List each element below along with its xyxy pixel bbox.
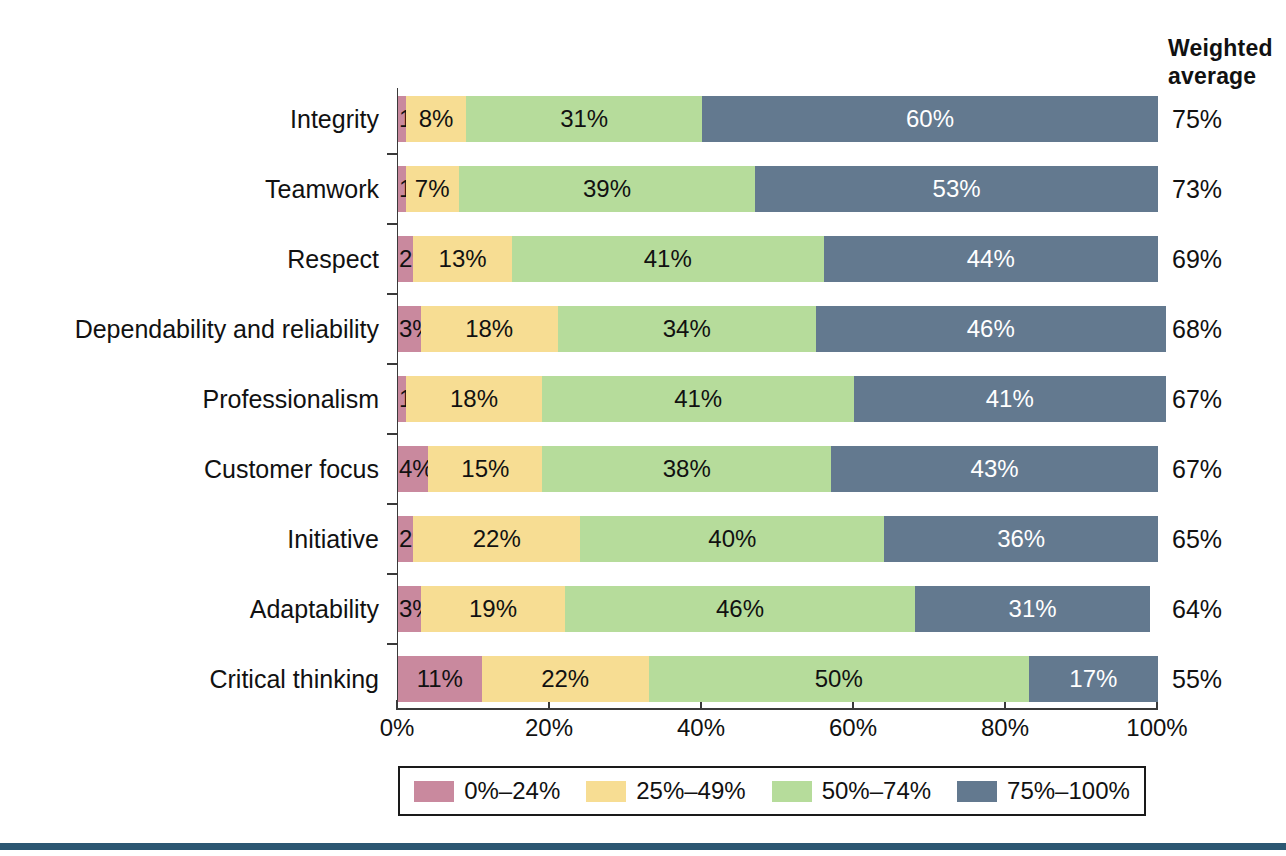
bar-segment-label: 11% bbox=[398, 656, 482, 702]
bar-segment-label: 46% bbox=[816, 306, 1166, 352]
category-label: Respect bbox=[0, 236, 379, 282]
bar-segment[interactable]: 11% bbox=[398, 656, 482, 702]
y-tick bbox=[387, 573, 398, 575]
bar-segment[interactable]: 38% bbox=[542, 446, 831, 492]
category-label: Integrity bbox=[0, 96, 379, 142]
legend-swatch bbox=[957, 781, 997, 802]
stacked-bar[interactable]: 11%22%50%17% bbox=[398, 656, 1158, 702]
legend-label: 0%–24% bbox=[464, 777, 560, 805]
stacked-bar[interactable]: 1%18%41%41% bbox=[398, 376, 1158, 422]
legend-item[interactable]: 75%–100% bbox=[957, 777, 1130, 805]
bar-segment-label: 31% bbox=[915, 586, 1151, 632]
legend-item[interactable]: 25%–49% bbox=[586, 777, 745, 805]
bar-segment[interactable]: 1% bbox=[398, 376, 406, 422]
bar-segment[interactable]: 22% bbox=[482, 656, 649, 702]
bar-segment[interactable]: 4% bbox=[398, 446, 428, 492]
bar-segment-label: 13% bbox=[413, 236, 512, 282]
bar-segment[interactable]: 18% bbox=[421, 306, 558, 352]
bar-segment[interactable]: 15% bbox=[428, 446, 542, 492]
bar-segment[interactable]: 31% bbox=[915, 586, 1151, 632]
bar-segment[interactable]: 41% bbox=[542, 376, 854, 422]
bar-segment[interactable]: 1% bbox=[398, 166, 406, 212]
stacked-bar[interactable]: 3%19%46%31% bbox=[398, 586, 1158, 632]
bar-segment-label: 60% bbox=[702, 96, 1158, 142]
bar-segment[interactable]: 1% bbox=[398, 96, 406, 142]
bar-segment[interactable]: 18% bbox=[406, 376, 543, 422]
bar-segment[interactable]: 50% bbox=[649, 656, 1029, 702]
stacked-bar[interactable]: 2%22%40%36% bbox=[398, 516, 1158, 562]
bar-segment[interactable]: 60% bbox=[702, 96, 1158, 142]
chart-page: Weighted average IntegrityTeamworkRespec… bbox=[0, 0, 1286, 856]
bar-segment[interactable]: 41% bbox=[512, 236, 824, 282]
bar-segment[interactable]: 53% bbox=[755, 166, 1158, 212]
stacked-bar[interactable]: 4%15%38%43% bbox=[398, 446, 1158, 492]
x-tick-label: 20% bbox=[525, 714, 573, 742]
bar-segment[interactable]: 22% bbox=[413, 516, 580, 562]
x-tick-label: 100% bbox=[1126, 714, 1187, 742]
stacked-bar[interactable]: 3%18%34%46% bbox=[398, 306, 1158, 352]
category-label: Teamwork bbox=[0, 166, 379, 212]
weighted-average-value: 67% bbox=[1172, 446, 1222, 492]
bar-segment[interactable]: 3% bbox=[398, 306, 421, 352]
weighted-average-header-line1: Weighted bbox=[1168, 34, 1286, 62]
bar-segment[interactable]: 7% bbox=[406, 166, 459, 212]
bar-segment-label: 53% bbox=[755, 166, 1158, 212]
bar-segment[interactable]: 36% bbox=[884, 516, 1158, 562]
category-label: Critical thinking bbox=[0, 656, 379, 702]
bar-segment-label: 8% bbox=[406, 96, 467, 142]
weighted-average-value: 68% bbox=[1172, 306, 1222, 352]
plot-area: 0%20%40%60%80%100% 1%8%31%60%75%1%7%39%5… bbox=[397, 88, 1157, 708]
x-tick-label: 40% bbox=[677, 714, 725, 742]
bar-segment[interactable]: 39% bbox=[459, 166, 755, 212]
legend-swatch bbox=[772, 781, 812, 802]
bar-segment[interactable]: 19% bbox=[421, 586, 565, 632]
legend-item[interactable]: 0%–24% bbox=[414, 777, 560, 805]
bar-segment[interactable]: 46% bbox=[565, 586, 915, 632]
bar-segment[interactable]: 40% bbox=[580, 516, 884, 562]
y-tick bbox=[387, 363, 398, 365]
bar-segment[interactable]: 31% bbox=[466, 96, 702, 142]
bar-segment[interactable]: 3% bbox=[398, 586, 421, 632]
bar-segment[interactable]: 43% bbox=[831, 446, 1158, 492]
bar-segment-label: 19% bbox=[421, 586, 565, 632]
bar-segment-label: 50% bbox=[649, 656, 1029, 702]
bar-segment[interactable]: 41% bbox=[854, 376, 1166, 422]
bar-segment-label: 31% bbox=[466, 96, 702, 142]
stacked-bar[interactable]: 1%7%39%53% bbox=[398, 166, 1158, 212]
bar-segment-label: 18% bbox=[406, 376, 543, 422]
bar-segment-label: 15% bbox=[428, 446, 542, 492]
bar-segment[interactable]: 2% bbox=[398, 236, 413, 282]
bar-segment[interactable]: 2% bbox=[398, 516, 413, 562]
stacked-bar[interactable]: 1%8%31%60% bbox=[398, 96, 1158, 142]
category-label: Professionalism bbox=[0, 376, 379, 422]
bar-segment-label: 41% bbox=[854, 376, 1166, 422]
bar-segment-label: 39% bbox=[459, 166, 755, 212]
bottom-rule bbox=[0, 843, 1286, 850]
y-tick bbox=[387, 153, 398, 155]
category-label: Adaptability bbox=[0, 586, 379, 632]
bar-segment[interactable]: 13% bbox=[413, 236, 512, 282]
legend: 0%–24%25%–49%50%–74%75%–100% bbox=[398, 766, 1146, 816]
stacked-bar[interactable]: 2%13%41%44% bbox=[398, 236, 1158, 282]
y-tick bbox=[387, 643, 398, 645]
bar-segment[interactable]: 34% bbox=[558, 306, 816, 352]
bar-segment[interactable]: 44% bbox=[824, 236, 1158, 282]
legend-swatch bbox=[414, 781, 454, 802]
bar-segment-label: 41% bbox=[542, 376, 854, 422]
weighted-average-value: 55% bbox=[1172, 656, 1222, 702]
y-tick bbox=[387, 293, 398, 295]
bar-segment-label: 18% bbox=[421, 306, 558, 352]
bar-segment[interactable]: 46% bbox=[816, 306, 1166, 352]
bar-segment[interactable]: 8% bbox=[406, 96, 467, 142]
x-axis-line bbox=[397, 708, 1158, 710]
legend-item[interactable]: 50%–74% bbox=[772, 777, 931, 805]
weighted-average-value: 67% bbox=[1172, 376, 1222, 422]
bar-segment-label: 44% bbox=[824, 236, 1158, 282]
y-tick bbox=[387, 433, 398, 435]
legend-swatch bbox=[586, 781, 626, 802]
bar-segment-label: 17% bbox=[1029, 656, 1158, 702]
bar-segment-label: 22% bbox=[413, 516, 580, 562]
bar-segment[interactable]: 17% bbox=[1029, 656, 1158, 702]
y-tick bbox=[387, 503, 398, 505]
bar-segment-label: 40% bbox=[580, 516, 884, 562]
